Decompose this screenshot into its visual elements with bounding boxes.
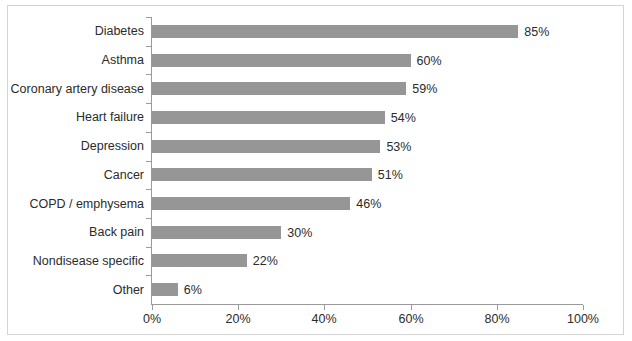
category-label: Heart failure (0, 110, 144, 124)
bar (152, 111, 385, 124)
bar (152, 25, 518, 38)
bar-value-label: 51% (378, 168, 403, 182)
y-axis-tick (146, 247, 151, 248)
x-axis-tick-label: 100% (567, 312, 599, 326)
x-axis-tick (152, 305, 153, 310)
category-label: COPD / emphysema (0, 197, 144, 211)
y-axis-tick (146, 189, 151, 190)
category-label: Back pain (0, 225, 144, 239)
bar-value-label: 59% (412, 82, 437, 96)
y-axis-tick (146, 103, 151, 104)
x-axis-tick-label: 80% (484, 312, 509, 326)
y-axis-tick (146, 17, 151, 18)
bar (152, 226, 281, 239)
bar-value-label: 6% (184, 283, 202, 297)
y-axis-tick (146, 132, 151, 133)
x-axis-tick-label: 60% (398, 312, 423, 326)
category-label: Coronary artery disease (0, 82, 144, 96)
x-axis-tick-label: 0% (143, 312, 161, 326)
y-axis-tick (146, 161, 151, 162)
x-axis-tick (583, 305, 584, 310)
bar (152, 82, 406, 95)
x-axis-tick-label: 20% (225, 312, 250, 326)
y-axis-tick (146, 275, 151, 276)
y-axis-tick (146, 46, 151, 47)
category-label: Cancer (0, 168, 144, 182)
x-axis-line (151, 304, 583, 305)
bar (152, 168, 372, 181)
bar (152, 140, 380, 153)
bar-value-label: 53% (386, 140, 411, 154)
category-label: Diabetes (0, 24, 144, 38)
bar (152, 197, 350, 210)
category-axis-labels: DiabetesAsthmaCoronary artery diseaseHea… (0, 0, 144, 341)
x-axis-tick (411, 305, 412, 310)
bar-chart-figure: DiabetesAsthmaCoronary artery diseaseHea… (0, 0, 632, 341)
plot-area: 85%60%59%54%53%51%46%30%22%6% (152, 17, 583, 304)
x-axis-tick-label: 40% (311, 312, 336, 326)
bar-value-label: 30% (287, 226, 312, 240)
bar-value-label: 54% (391, 111, 416, 125)
category-label: Asthma (0, 53, 144, 67)
bar-value-label: 85% (524, 25, 549, 39)
bar (152, 283, 178, 296)
bar-value-label: 60% (417, 54, 442, 68)
bar (152, 54, 411, 67)
bar (152, 254, 247, 267)
bar-value-label: 22% (253, 254, 278, 268)
category-label: Depression (0, 139, 144, 153)
x-axis-tick (324, 305, 325, 310)
x-axis-tick (238, 305, 239, 310)
bar-value-label: 46% (356, 197, 381, 211)
x-axis-tick (497, 305, 498, 310)
y-axis-tick (146, 218, 151, 219)
category-label: Other (0, 283, 144, 297)
y-axis-tick (146, 74, 151, 75)
category-label: Nondisease specific (0, 254, 144, 268)
